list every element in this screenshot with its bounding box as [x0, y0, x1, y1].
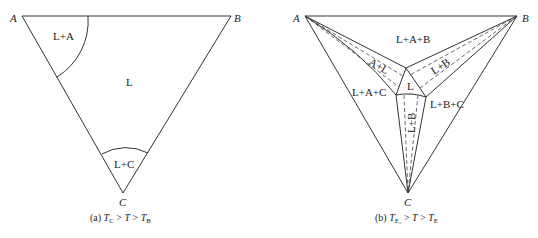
caption-b: (b) TE₂ > T > TE [375, 212, 438, 225]
region-l-plus-c: L+C [114, 158, 134, 170]
panel-a: A B C L+A L L+C (a) TC > T > TB [9, 12, 241, 225]
region-l: L [407, 80, 414, 92]
region-l: L [126, 76, 133, 88]
vertex-b-label: B [234, 12, 241, 24]
boundary-b-bottom [426, 16, 517, 97]
vertex-a-label: A [292, 12, 300, 24]
tie-line [420, 16, 517, 88]
region-vertical-label: L+B [405, 113, 417, 133]
panel-b: A B C L+A+B A+L L+B L L+A+C L+B+C L+B (b… [292, 12, 529, 225]
region-l-plus-b-plus-c: L+B+C [430, 98, 464, 110]
ternary-diagrams: A B C L+A L L+C (a) TC > T > TB A B C L+… [0, 0, 538, 238]
vertex-c-label: C [119, 196, 127, 208]
vertex-b-label: B [522, 12, 529, 24]
liquidus-arc-a [57, 16, 88, 77]
vertex-a-label: A [9, 12, 17, 24]
region-l-plus-a: L+A [53, 30, 74, 42]
tie-line [410, 16, 517, 75]
caption-a: (a) TC > T > TB [90, 212, 151, 225]
region-l-plus-b: L+B [429, 56, 453, 77]
vertex-c-label: C [404, 196, 412, 208]
liquidus-arc-c [102, 148, 148, 154]
tie-line [305, 16, 399, 87]
region-l-plus-a-plus-c: L+A+C [352, 86, 386, 98]
region-l-plus-a-plus-b: L+A+B [396, 33, 430, 45]
